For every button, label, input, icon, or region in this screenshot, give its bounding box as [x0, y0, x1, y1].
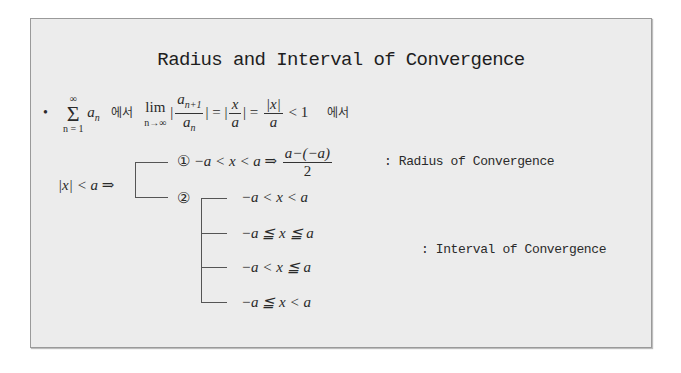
bracket-branch-1: [135, 162, 168, 163]
bracket-2-branch-2: [201, 233, 227, 234]
ratio-fraction: an+1 an: [175, 91, 203, 136]
radius-of-convergence-label: : Radius of Convergence: [384, 154, 554, 169]
korean-text: 에서: [327, 106, 349, 120]
condition-text: |x| < a ⇒: [58, 176, 114, 194]
slide-panel: Radius and Interval of Convergence • ∞ Σ…: [30, 18, 652, 348]
interval-closed: −a ≦ x ≦ a: [241, 224, 314, 242]
radius-fraction: a−(−a) 2: [283, 145, 332, 180]
interval-open: −a < x < a: [241, 189, 308, 206]
x-over-a-fraction: x a: [229, 96, 241, 131]
abs-x-over-a-fraction: |x| a: [264, 96, 283, 131]
bracket-2-branch-1: [201, 198, 227, 199]
case-1-inequality: −a < x < a ⇒: [194, 153, 277, 169]
bullet-icon: •: [43, 105, 48, 120]
case-1-row: ① −a < x < a ⇒ a−(−a) 2: [177, 145, 334, 180]
bracket-2-branch-4: [201, 302, 227, 303]
korean-text: 에서: [111, 106, 133, 120]
bracket-branch-2: [135, 197, 168, 198]
limit: lim n→∞: [144, 99, 166, 129]
case-2-marker: ②: [177, 189, 190, 207]
summation: ∞ Σ n = 1: [63, 94, 84, 134]
interval-half-open-left: −a ≦ x < a: [241, 293, 311, 311]
interval-of-convergence-label: : Interval of Convergence: [421, 242, 606, 257]
series-ratio-formula: • ∞ Σ n = 1 an 에서 lim n→∞ | an+1 an | = …: [43, 91, 349, 136]
bracket-vertical: [135, 162, 136, 198]
case-1-marker: ①: [177, 153, 190, 169]
bracket-2-vertical: [201, 198, 202, 303]
interval-half-open-right: −a < x ≦ a: [241, 258, 311, 276]
slide-title: Radius and Interval of Convergence: [31, 49, 651, 71]
bracket-2-branch-3: [201, 267, 227, 268]
